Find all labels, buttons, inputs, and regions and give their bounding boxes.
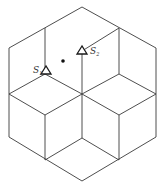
edge (45, 74, 82, 94)
hexagon-tiling-diagram: S1 S2 (0, 0, 165, 185)
edge (9, 94, 45, 115)
edge (82, 74, 119, 94)
s1-triangle-marker (41, 66, 51, 74)
edge (82, 28, 119, 51)
edge (82, 94, 119, 115)
s2-label: S2 (90, 46, 99, 57)
edge (45, 138, 82, 160)
edge (9, 74, 45, 94)
edge (119, 74, 156, 94)
s2-triangle-marker (77, 46, 87, 54)
edge (82, 138, 119, 160)
point-dot (61, 59, 65, 63)
edge (119, 94, 156, 115)
edge (45, 94, 82, 115)
s1-label: S1 (33, 65, 42, 76)
